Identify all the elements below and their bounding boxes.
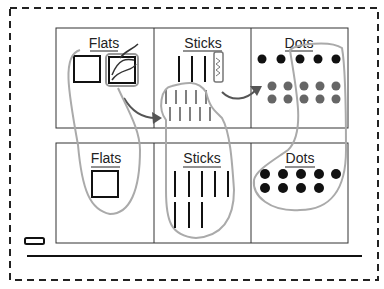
header-flats-top: Flats: [89, 35, 119, 51]
sticks-regrouped: [166, 90, 210, 121]
header-flats-bottom: Flats: [91, 150, 121, 166]
arrow-sticks-to-dots-icon: [222, 86, 262, 99]
dots-top: [258, 55, 341, 64]
small-bar-icon: [25, 238, 44, 244]
stick-regrouped-icon: [214, 52, 223, 82]
grouping-loops: [68, 44, 346, 238]
header-sticks-bottom: Sticks: [183, 150, 220, 166]
place-value-diagram: Flats Sticks Dots Flats Sticks Dots: [0, 0, 384, 289]
header-dots-bottom: Dots: [286, 150, 315, 166]
header-dots-top: Dots: [285, 35, 314, 51]
flat-square-icon: [74, 56, 100, 82]
dots-regrouped: [268, 82, 341, 104]
flat-square-icon: [92, 171, 118, 197]
sticks-bottom: [175, 171, 228, 228]
sticks-top: [179, 56, 205, 82]
header-sticks-top: Sticks: [184, 35, 221, 51]
dots-bottom: [260, 169, 341, 193]
